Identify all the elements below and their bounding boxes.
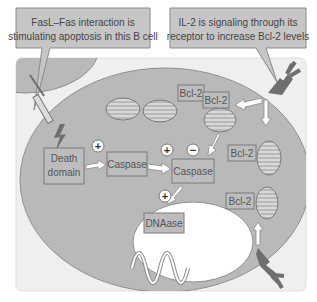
callout-il2-line1: IL-2 is signaling through its	[179, 17, 298, 28]
plus-sign-caspase-dnaase: +	[159, 190, 171, 202]
svg-text:DNAase: DNAase	[145, 218, 183, 229]
mitochondrion-5	[256, 187, 278, 219]
callout-fasl-line2: stimulating apoptosis in this B cell	[8, 31, 158, 42]
mitochondrion-3	[204, 108, 236, 132]
svg-text:Bcl-2: Bcl-2	[180, 88, 203, 99]
svg-text:+: +	[95, 140, 101, 152]
svg-text:−: −	[190, 144, 196, 156]
mitochondrion-2	[143, 100, 177, 122]
plus-sign-caspase-caspase: +	[161, 144, 173, 156]
svg-text:Caspase: Caspase	[173, 166, 213, 177]
callout-il2-line2: receptor to increase Bcl-2 levels	[167, 31, 309, 42]
svg-text:domain: domain	[48, 167, 81, 178]
callout-fasl-line1: FasL–Fas interaction is	[31, 17, 134, 28]
plus-sign-death-caspase: +	[92, 140, 104, 152]
svg-text:Caspase: Caspase	[107, 159, 147, 170]
minus-sign-bcl2-caspase: −	[187, 144, 199, 156]
mitochondrion-4	[257, 141, 281, 175]
apoptosis-diagram: FasL–Fas interaction is stimulating apop…	[0, 0, 317, 302]
svg-text:Bcl-2: Bcl-2	[229, 196, 252, 207]
mitochondrion-1	[106, 98, 140, 120]
svg-text:+: +	[162, 190, 168, 202]
svg-text:Death: Death	[51, 153, 78, 164]
svg-text:+: +	[164, 144, 170, 156]
svg-text:Bcl-2: Bcl-2	[231, 148, 254, 159]
svg-text:Bcl-2: Bcl-2	[205, 95, 228, 106]
